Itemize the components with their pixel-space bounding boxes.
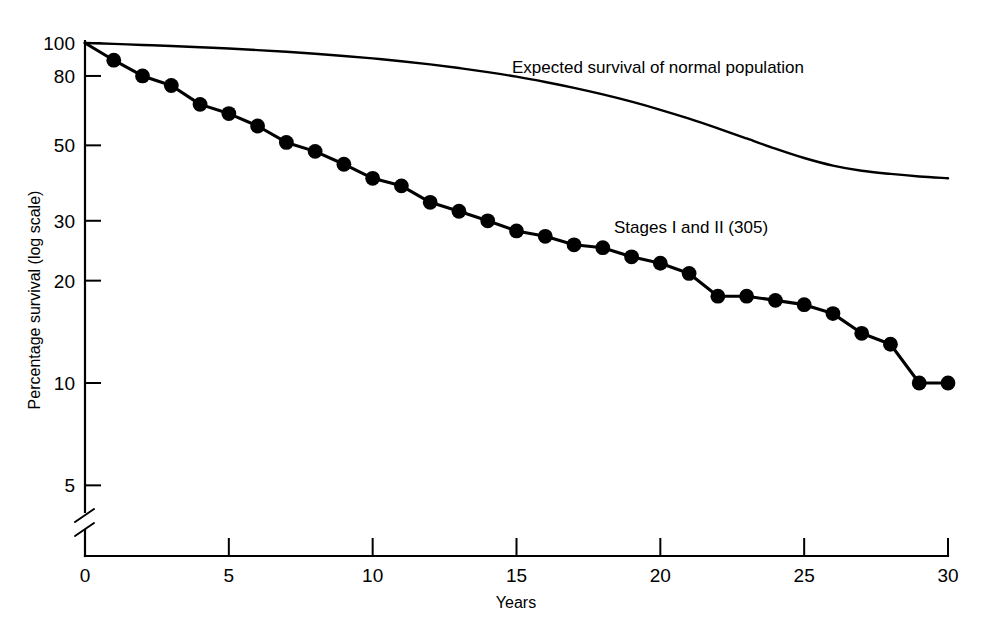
data-point-marker xyxy=(221,106,236,121)
data-point-marker xyxy=(567,237,582,252)
data-point-marker xyxy=(250,119,265,134)
data-point-marker xyxy=(595,240,610,255)
data-point-marker xyxy=(279,135,294,150)
x-tick-label: 30 xyxy=(937,565,958,586)
data-point-marker xyxy=(509,224,524,239)
x-tick-label: 25 xyxy=(794,565,815,586)
x-tick-label: 0 xyxy=(80,565,91,586)
data-point-marker xyxy=(797,297,812,312)
chart-canvas: 10080503020105 051015202530 Percentage s… xyxy=(0,0,986,644)
y-axis-title: Percentage survival (log scale) xyxy=(26,191,43,410)
data-point-marker xyxy=(941,376,956,391)
stages-survival-curve xyxy=(85,43,948,383)
data-point-marker xyxy=(682,266,697,281)
data-point-marker xyxy=(624,249,639,264)
x-axis-tick-labels: 051015202530 xyxy=(80,565,959,586)
data-point-marker xyxy=(480,213,495,228)
stages-survival-annotation: Stages I and II (305) xyxy=(614,218,768,237)
data-point-marker xyxy=(538,229,553,244)
axes-group xyxy=(75,41,948,556)
data-point-marker xyxy=(337,157,352,172)
survival-chart-figure: 10080503020105 051015202530 Percentage s… xyxy=(0,0,986,644)
data-point-marker xyxy=(452,204,467,219)
y-tick-label: 5 xyxy=(64,475,75,496)
data-point-marker xyxy=(854,326,869,341)
x-tick-label: 10 xyxy=(362,565,383,586)
y-tick-label: 30 xyxy=(54,211,75,232)
y-tick-label: 50 xyxy=(54,135,75,156)
data-point-marker xyxy=(768,293,783,308)
data-point-marker xyxy=(106,53,121,68)
data-point-marker xyxy=(710,289,725,304)
data-point-marker xyxy=(883,337,898,352)
tick-marks-group xyxy=(85,43,948,556)
y-tick-label: 80 xyxy=(54,66,75,87)
data-point-marker xyxy=(164,78,179,93)
data-point-marker xyxy=(739,289,754,304)
x-tick-label: 5 xyxy=(224,565,235,586)
data-point-marker xyxy=(653,256,668,271)
data-point-marker xyxy=(423,195,438,210)
data-point-marker xyxy=(394,178,409,193)
data-point-marker xyxy=(308,144,323,159)
data-point-marker xyxy=(365,171,380,186)
data-point-marker xyxy=(912,376,927,391)
stages-data-point-markers xyxy=(106,53,955,391)
y-tick-label: 20 xyxy=(54,271,75,292)
data-point-marker xyxy=(826,306,841,321)
y-axis-tick-labels: 10080503020105 xyxy=(43,33,75,496)
data-point-marker xyxy=(135,69,150,84)
stages-survival-series xyxy=(85,43,948,383)
x-tick-label: 15 xyxy=(506,565,527,586)
x-axis-title: Years xyxy=(496,594,536,611)
data-point-marker xyxy=(193,97,208,112)
x-tick-label: 20 xyxy=(650,565,671,586)
y-tick-label: 100 xyxy=(43,33,75,54)
y-tick-label: 10 xyxy=(54,373,75,394)
expected-survival-annotation: Expected survival of normal population xyxy=(512,58,804,77)
